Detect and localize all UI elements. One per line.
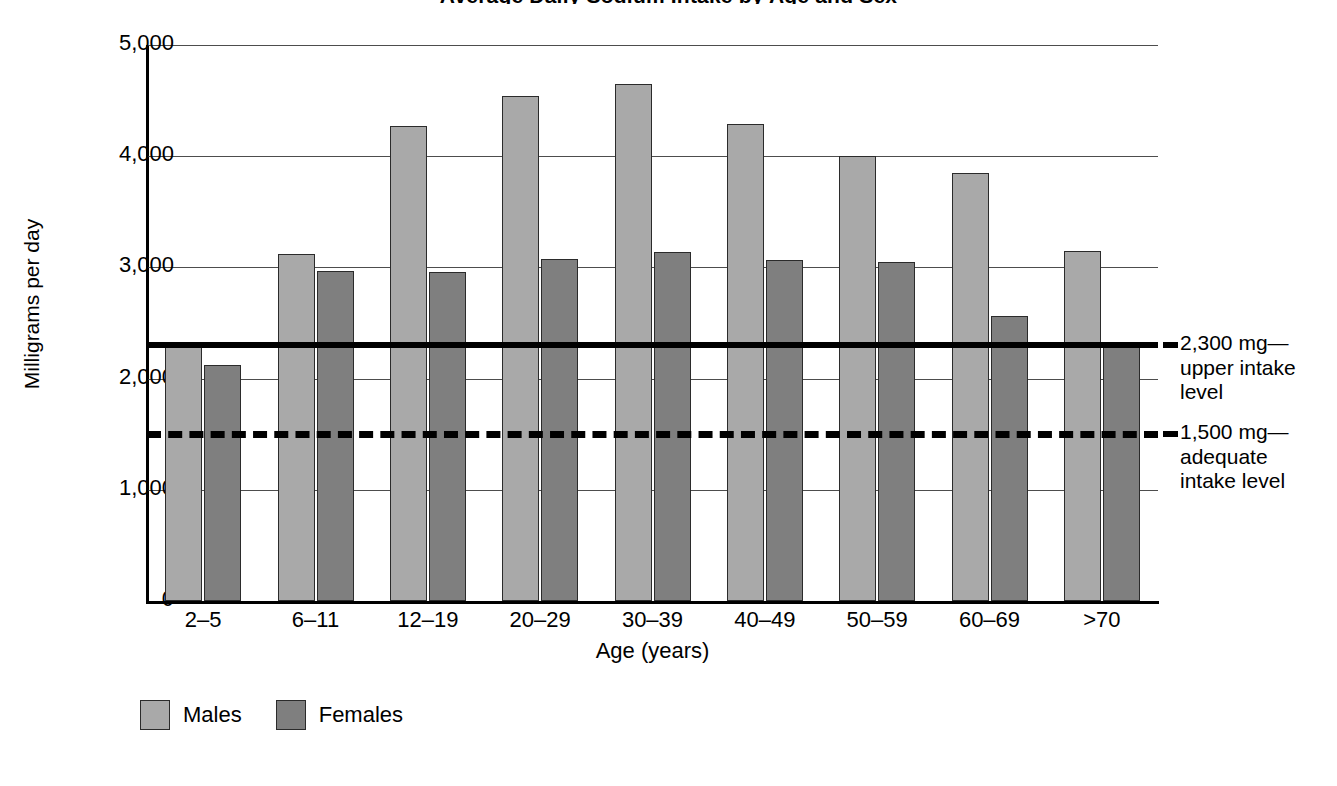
bar-group-30–39: [615, 45, 691, 601]
y-tick-label-4000: 4,000: [54, 141, 174, 167]
x-tick-label->70: >70: [1046, 607, 1158, 633]
page-title: Average Daily Sodium Intake by Age and S…: [0, 0, 1337, 4]
y-tick-label-0: 0: [54, 586, 174, 612]
x-axis-line: [146, 601, 1159, 604]
reference-label-line: 1,500 mg—: [1180, 420, 1337, 445]
bar-group-2–5: [165, 45, 241, 601]
bar-females-30–39[interactable]: [654, 252, 691, 601]
x-tick-label-50–59: 50–59: [821, 607, 933, 633]
bar-group-6–11: [278, 45, 354, 601]
x-tick-label-12–19: 12–19: [372, 607, 484, 633]
x-tick-label-40–49: 40–49: [709, 607, 821, 633]
x-tick-label-20–29: 20–29: [484, 607, 596, 633]
reference-label-2300: 2,300 mg—upper intakelevel: [1180, 331, 1337, 405]
bar-group-40–49: [727, 45, 803, 601]
bar-males-6–11[interactable]: [278, 254, 315, 601]
bar-group->70: [1064, 45, 1140, 601]
bar-males-50–59[interactable]: [839, 156, 876, 601]
x-axis-title: Age (years): [147, 638, 1158, 664]
bar-males-40–49[interactable]: [727, 124, 764, 601]
y-axis-line: [146, 45, 149, 602]
bar-group-12–19: [390, 45, 466, 601]
reference-line-2300: [147, 342, 1158, 348]
reference-line-1500: [147, 431, 1158, 438]
y-tick-label-2000: 2,000: [54, 364, 174, 390]
y-axis-title: Milligrams per day: [20, 154, 44, 454]
bar-males-12–19[interactable]: [390, 126, 427, 601]
reference-marker-2300-icon: [1163, 342, 1178, 348]
y-tick-label-1000: 1,000: [54, 475, 174, 501]
legend-label-females: Females: [319, 702, 403, 728]
reference-label-line: intake level: [1180, 469, 1337, 494]
bar-females-2–5[interactable]: [204, 365, 241, 601]
y-tick-label-3000: 3,000: [54, 252, 174, 278]
bar-males-2–5[interactable]: [165, 342, 202, 601]
reference-label-line: 2,300 mg—: [1180, 331, 1337, 356]
reference-label-1500: 1,500 mg—adequateintake level: [1180, 420, 1337, 494]
x-tick-label-6–11: 6–11: [259, 607, 371, 633]
bar-group-60–69: [952, 45, 1028, 601]
reference-label-line: adequate: [1180, 445, 1337, 470]
legend-label-males: Males: [183, 702, 242, 728]
bar-group-50–59: [839, 45, 915, 601]
reference-label-line: level: [1180, 380, 1337, 405]
bar-males-60–69[interactable]: [952, 173, 989, 601]
legend: Males Females: [140, 700, 403, 730]
sodium-intake-bar-chart: Average Daily Sodium Intake by Age and S…: [0, 0, 1337, 786]
bar-females-60–69[interactable]: [991, 316, 1028, 601]
x-tick-label-60–69: 60–69: [933, 607, 1045, 633]
reference-marker-1500-icon: [1163, 431, 1178, 437]
bar-males-20–29[interactable]: [502, 96, 539, 601]
reference-label-line: upper intake: [1180, 356, 1337, 381]
y-tick-label-5000: 5,000: [54, 30, 174, 56]
legend-swatch-males-icon: [140, 700, 170, 730]
x-tick-label-30–39: 30–39: [596, 607, 708, 633]
legend-item-males: Males: [140, 700, 242, 730]
plot-area: 2–56–1112–1920–2930–3940–4950–5960–69>70: [147, 45, 1158, 601]
legend-swatch-females-icon: [276, 700, 306, 730]
bar-females->70[interactable]: [1103, 344, 1140, 601]
bar-males->70[interactable]: [1064, 251, 1101, 601]
bar-group-20–29: [502, 45, 578, 601]
legend-item-females: Females: [276, 700, 403, 730]
bar-females-20–29[interactable]: [541, 259, 578, 601]
